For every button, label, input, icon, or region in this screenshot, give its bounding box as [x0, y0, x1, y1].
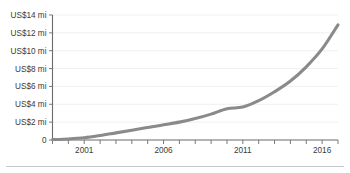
x-axis-tick-label: 2011	[234, 146, 252, 155]
y-axis-tick-label: US$8 mi	[15, 65, 47, 74]
y-axis-tick-label: US$4 mi	[15, 100, 47, 109]
y-axis-tick-label: US$10 mi	[11, 47, 47, 56]
x-axis-labels: 2001200620112016	[75, 146, 332, 155]
gridlines	[53, 15, 339, 122]
x-axis-ticks	[53, 140, 339, 144]
x-axis-tick-label: 2016	[313, 146, 332, 155]
line-chart: 0US$2 miUS$4 miUS$6 miUS$8 miUS$10 miUS$…	[0, 0, 350, 173]
x-axis-tick-label: 2001	[75, 146, 94, 155]
x-axis-tick-label: 2006	[154, 146, 173, 155]
y-axis-labels: 0US$2 miUS$4 miUS$6 miUS$8 miUS$10 miUS$…	[11, 11, 47, 145]
y-axis-tick-label: US$12 mi	[11, 29, 47, 38]
y-axis-tick-label: US$6 mi	[15, 82, 47, 91]
y-axis-tick-label: US$14 mi	[11, 11, 47, 20]
y-axis-tick-label: US$2 mi	[15, 118, 47, 127]
y-axis-tick-label: 0	[42, 136, 47, 145]
chart-canvas: 0US$2 miUS$4 miUS$6 miUS$8 miUS$10 miUS$…	[0, 0, 350, 173]
